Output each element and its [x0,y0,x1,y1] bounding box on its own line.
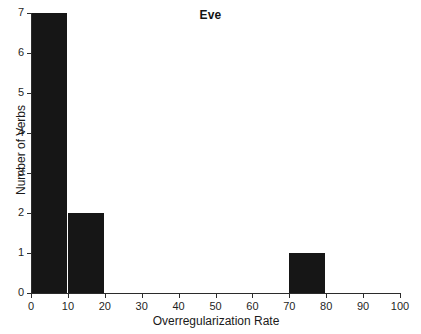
x-tick-mark [400,294,401,298]
y-axis-label: Number of Verbs [14,60,28,240]
y-tick-label: 7 [0,6,24,18]
x-axis-label: Overregularization Rate [31,314,401,328]
x-tick-label: 90 [345,300,381,312]
histogram-bar [289,253,325,293]
y-tick-mark [27,53,31,54]
x-tick-label: 0 [13,300,49,312]
y-tick-label: 1 [0,246,24,258]
x-tick-mark [179,294,180,298]
y-tick-label: 6 [0,46,24,58]
x-tick-label: 70 [271,300,307,312]
x-tick-mark [363,294,364,298]
x-tick-label: 40 [161,300,197,312]
y-tick-mark [27,13,31,14]
x-tick-mark [216,294,217,298]
y-tick-label: 0 [0,286,24,298]
x-tick-label: 30 [124,300,160,312]
x-tick-mark [31,294,32,298]
histogram-bar [31,13,67,293]
histogram-bar [68,213,104,293]
x-tick-mark [252,294,253,298]
x-tick-mark [142,294,143,298]
histogram-figure: Eve 0102030405060708090100 01234567 Over… [0,0,421,334]
x-tick-label: 10 [50,300,86,312]
x-tick-label: 20 [87,300,123,312]
x-tick-label: 80 [308,300,344,312]
x-tick-label: 60 [234,300,270,312]
y-tick-mark [27,293,31,294]
x-tick-mark [326,294,327,298]
y-tick-mark [27,253,31,254]
x-tick-mark [289,294,290,298]
x-tick-mark [68,294,69,298]
y-axis-line [31,13,32,294]
x-tick-label: 50 [198,300,234,312]
x-tick-mark [105,294,106,298]
x-tick-label: 100 [382,300,418,312]
plot-area [31,13,400,293]
